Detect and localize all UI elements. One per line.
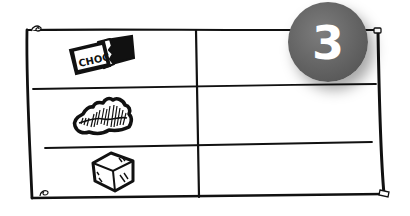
step-number: 3 [312,20,344,66]
table-cell-row2-answer[interactable] [199,86,377,142]
step-number-badge: 3 [288,2,368,82]
table-cell-row3-answer[interactable] [200,144,382,194]
worksheet-table: CHOC [0,0,410,216]
table-cell-row3-icon [32,149,198,197]
table-cell-row2-icon [30,89,196,146]
table-cell-row1-icon [30,31,196,87]
